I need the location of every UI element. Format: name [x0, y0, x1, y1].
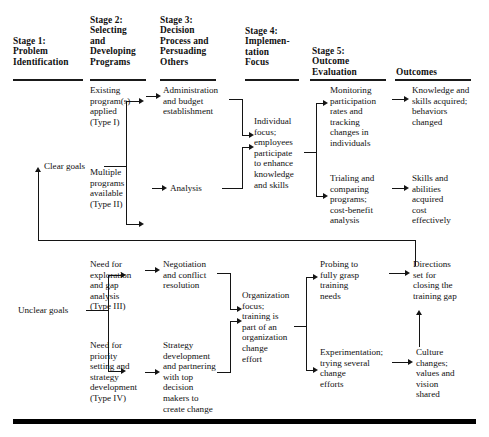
- column-header-stage4: Stage 4:Implemen-tationFocus: [245, 26, 311, 68]
- connector-negotiation-merge-v: [230, 273, 231, 309]
- node-type4: Need forprioritysetting andstrategydevel…: [90, 340, 152, 404]
- connector-strategy-merge-v: [230, 321, 231, 373]
- connector-individual-split-v: [316, 103, 317, 197]
- connector-culture-to-directions: [419, 315, 420, 347]
- node-experimentation: Experimentation;trying severalchangeeffo…: [320, 347, 390, 389]
- connector-analysis-merge-h: [222, 188, 243, 189]
- column-header-outcomes: Outcomes: [396, 67, 476, 77]
- arrowhead-strategy: [155, 369, 160, 375]
- node-monitoring: Monitoringparticipationrates andtracking…: [330, 85, 392, 149]
- node-culture: Culturechanges;values andvisionshared: [416, 347, 478, 400]
- connector-negotiation-merge-h: [217, 273, 231, 274]
- column-header-stage5: Stage 5:OutcomeEvaluation: [312, 46, 386, 77]
- arrowhead-experimentation: [313, 367, 318, 373]
- node-administration: Administrationand budgetestablishment: [163, 85, 239, 117]
- arrowhead-trialing: [323, 193, 328, 199]
- connector-experimentation-culture: [392, 362, 409, 363]
- node-clear-goals: Clear goals: [44, 161, 85, 172]
- arrowhead-to-type2: [139, 221, 144, 227]
- node-type2: Multipleprogramsavailable(Type II): [90, 167, 156, 209]
- arrowhead-analysis: [162, 185, 167, 191]
- connector-analysis-merge-v: [242, 147, 243, 189]
- connector-strategy-merge-h: [217, 372, 231, 373]
- node-directions: Directionsset forclosing thetraining gap: [413, 259, 479, 301]
- connector-organization-split-v: [306, 277, 307, 371]
- node-negotiation: Negotiationand conflictresolution: [163, 259, 225, 291]
- node-analysis: Analysis: [170, 183, 220, 194]
- node-type3: Need forexplorationand gapanalysis(Type …: [90, 259, 152, 312]
- arrowhead-probing: [313, 274, 318, 280]
- node-knowledge: Knowledge andskills acquired;behaviorsch…: [412, 85, 484, 127]
- column-rule-stage2: [90, 79, 146, 81]
- connector-admin-merge-v: [242, 99, 243, 135]
- stage-model-diagram: Stage 1:ProblemIdentification Stage 2:Se…: [0, 0, 489, 437]
- column-rule-stage1: [13, 79, 83, 81]
- node-organization-focus: Organizationfocus;training ispart of ano…: [242, 290, 302, 364]
- column-header-stage1: Stage 1:ProblemIdentification: [13, 36, 89, 67]
- arrowhead-admin: [156, 93, 161, 99]
- column-rule-outcomes: [395, 79, 471, 81]
- connector-admin-merge-h: [229, 99, 243, 100]
- column-header-stage3: Stage 3:DecisionProcess andPersuadingOth…: [160, 15, 238, 67]
- arrowhead-knowledge: [404, 96, 409, 102]
- node-type1: Existingprogram(s)applied(Type I): [90, 85, 156, 127]
- node-probing: Probing tofully grasptrainingneeds: [320, 259, 382, 301]
- arrowhead-directions: [405, 270, 410, 276]
- column-rule-stage3: [160, 79, 216, 81]
- column-header-stage2: Stage 2:SelectingandDevelopingPrograms: [90, 15, 156, 67]
- feedback-left-vertical: [38, 172, 39, 241]
- arrowhead-directions-from-culture: [416, 310, 422, 315]
- connector-cleargoals-to-type2: [126, 224, 140, 225]
- column-rule-stage5: [310, 79, 386, 81]
- node-skills-abilities: Skills andabilitiesacquiredcosteffective…: [412, 173, 478, 226]
- bottom-frame-rule: [13, 419, 476, 424]
- node-strategy: Strategydevelopmentand partneringwith to…: [163, 340, 233, 414]
- arrowhead-monitoring: [323, 100, 328, 106]
- arrowhead-negotiation: [155, 267, 160, 273]
- arrowhead-feedback-clear-goals: [35, 167, 41, 172]
- arrowhead-culture: [408, 359, 413, 365]
- connector-probing-directions: [389, 273, 406, 274]
- column-rule-stage4: [245, 79, 299, 81]
- arrowhead-skills-abilities: [404, 185, 409, 191]
- node-individual-focus: Individualfocus;employeesparticipateto e…: [254, 116, 312, 190]
- node-trialing: Trialing andcomparingprograms;cost-benef…: [330, 173, 392, 226]
- node-unclear-goals: Unclear goals: [18, 305, 68, 316]
- feedback-horizontal: [38, 240, 416, 241]
